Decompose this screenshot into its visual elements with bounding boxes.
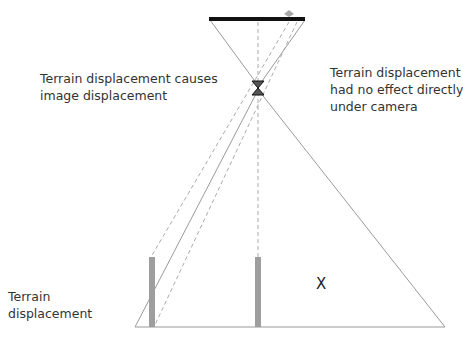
image-plane	[209, 17, 305, 21]
x-marker: X	[316, 276, 326, 293]
annotation-line: under camera	[330, 98, 463, 115]
ray-left-bar-base	[154, 22, 297, 327]
lens-hourglass-icon	[252, 81, 264, 95]
annotation-line: Terrain	[8, 288, 92, 305]
terrain-bar-center	[255, 257, 261, 327]
terrain-bar-left	[149, 257, 155, 327]
upper-cone-right-edge	[260, 20, 305, 84]
annotation-line: Terrain displacement causes	[40, 70, 218, 87]
annotation-image-displacement: Terrain displacement causes image displa…	[40, 70, 218, 104]
image-point-marker-icon	[284, 10, 294, 17]
annotation-line: displacement	[8, 305, 92, 322]
annotation-line: had no effect directly	[330, 81, 463, 98]
annotation-line: Terrain displacement	[330, 64, 463, 81]
annotation-terrain-displacement: Terrain displacement	[8, 288, 92, 322]
annotation-line: image displacement	[40, 87, 218, 104]
ray-left-bar-top	[151, 22, 289, 257]
annotation-no-effect-under-camera: Terrain displacement had no effect direc…	[330, 64, 463, 115]
lower-cone-right-edge	[260, 92, 445, 327]
